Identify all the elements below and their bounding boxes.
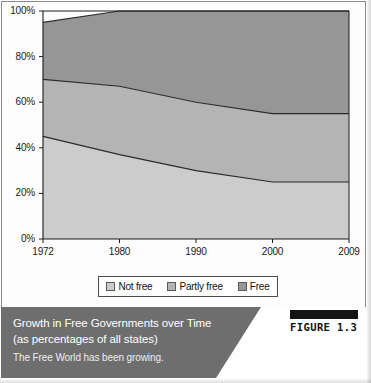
y-tick-label: 40%: [1, 142, 35, 153]
chart-legend: Not freePartly freeFree: [98, 276, 278, 297]
scan-edge-bottom: [0, 379, 371, 383]
x-tick-label: 2009: [329, 246, 369, 257]
y-tick-label: 80%: [1, 51, 35, 62]
legend-label: Not free: [118, 281, 152, 292]
legend-swatch-icon: [167, 282, 176, 291]
chart-panel: 0%20%40%60%80%100% 19721980199020002009: [0, 0, 366, 302]
legend-entry-not-free: Not free: [106, 281, 152, 292]
caption-title-line-2: (as percentages of all states): [13, 331, 258, 347]
y-tick-label: 0%: [1, 233, 35, 244]
y-tick-label: 60%: [1, 96, 35, 107]
scan-edge-right: [367, 0, 371, 383]
figure-number-label: FIGURE 1.3: [290, 321, 362, 333]
x-tick-label: 2000: [253, 246, 293, 257]
x-tick-label: 1980: [100, 246, 140, 257]
figure-number-bar: [290, 310, 358, 319]
caption-subtitle: The Free World has been growing.: [13, 350, 258, 366]
caption-text-group: Growth in Free Governments over Time (as…: [13, 315, 258, 366]
legend-entry-partly-free: Partly free: [167, 281, 222, 292]
x-tick-label: 1972: [23, 246, 63, 257]
legend-swatch-icon: [238, 282, 247, 291]
figure-number-block: FIGURE 1.3: [290, 310, 362, 333]
figure-container: 0%20%40%60%80%100% 19721980199020002009 …: [0, 0, 371, 383]
caption-title-line-1: Growth in Free Governments over Time: [13, 315, 258, 331]
legend-label: Free: [250, 281, 270, 292]
legend-entry-free: Free: [238, 281, 270, 292]
y-tick-label: 20%: [1, 187, 35, 198]
legend-swatch-icon: [106, 282, 115, 291]
y-tick-label: 100%: [1, 5, 35, 16]
x-tick-label: 1990: [176, 246, 216, 257]
legend-label: Partly free: [179, 281, 222, 292]
area-series-group: [43, 11, 349, 239]
